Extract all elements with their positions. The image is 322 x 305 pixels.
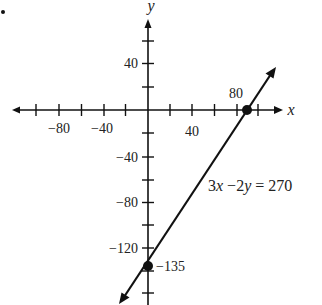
equation-label: 3x −2y = 270 xyxy=(208,177,292,195)
line-bottom-arrow-icon xyxy=(119,293,130,305)
x-tick-label-40: 40 xyxy=(185,124,199,139)
eq-rhs: = 270 xyxy=(251,177,292,194)
y-axis-label: y xyxy=(145,0,155,15)
y-axis-up-arrow-icon xyxy=(145,19,152,28)
x-tick-label-neg40: −40 xyxy=(91,121,113,136)
y-tick-label-40: 40 xyxy=(124,56,138,71)
x-intercept-label: 80 xyxy=(229,86,243,101)
x-axis-left-arrow-icon xyxy=(12,107,20,114)
x-intercept-point xyxy=(242,105,252,115)
x-axis-label: x xyxy=(286,101,294,118)
bullet-dot xyxy=(1,10,5,14)
y-tick-label-neg80: −80 xyxy=(116,195,138,210)
y-tick-label-neg40: −40 xyxy=(116,150,138,165)
coordinate-graph: −80 −40 40 x 40 −40 −80 −120 y xyxy=(0,0,322,305)
y-intercept-point xyxy=(143,261,153,271)
y-intercept-label: −135 xyxy=(156,259,185,274)
y-tick-label-neg120: −120 xyxy=(109,241,138,256)
eq-minus: −2 xyxy=(223,177,244,194)
eq-var-x: x xyxy=(215,177,223,194)
x-tick-label-neg80: −80 xyxy=(48,121,70,136)
x-axis-right-arrow-icon xyxy=(274,106,283,114)
line-top-arrow-icon xyxy=(266,67,277,79)
eq-coef-x: 3 xyxy=(208,177,216,194)
